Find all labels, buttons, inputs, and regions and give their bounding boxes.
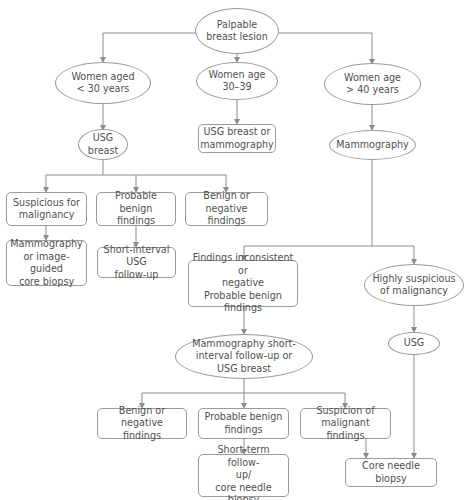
node-palpable-breast-lesion: Palpable breast lesion bbox=[195, 8, 279, 54]
node-benign-or-negative-findings-1: Benign or negative findings bbox=[185, 192, 268, 226]
node-women-under-30: Women aged < 30 years bbox=[55, 62, 151, 104]
node-mammography: Mammography bbox=[329, 130, 416, 160]
node-findings-inconsistent: Findings inconsistent or negative Probab… bbox=[188, 260, 298, 307]
node-usg-breast: USG breast bbox=[78, 129, 128, 160]
node-probable-benign-findings-2: Probable benign findings bbox=[198, 408, 289, 439]
node-benign-or-negative-findings-2: Benign or negative findings bbox=[97, 408, 187, 439]
node-suspicion-of-malignant-findings: Suspicion of malignant findings bbox=[300, 408, 391, 439]
node-women-30-39: Women age 30–39 bbox=[196, 62, 278, 100]
node-usg: USG bbox=[388, 332, 440, 355]
node-core-needle-biopsy: Core needle biopsy bbox=[345, 458, 437, 487]
flowchart-canvas: Palpable breast lesion Women aged < 30 y… bbox=[0, 0, 469, 500]
node-mammography-short-interval: Mammography short- interval follow-up or… bbox=[175, 334, 313, 379]
node-highly-suspicious: Highly suspicious of malignancy bbox=[364, 264, 464, 306]
node-mammography-or-core-biopsy: Mammography or image-guided core biopsy bbox=[6, 240, 87, 286]
node-usg-or-mammography: USG breast or mammography bbox=[198, 124, 276, 153]
node-women-over-40: Women age > 40 years bbox=[324, 63, 421, 105]
node-suspicious-for-malignancy: Suspicious for malignancy bbox=[6, 192, 87, 226]
node-probable-benign-findings-1: Probable benign findings bbox=[96, 192, 176, 226]
node-short-term-followup: Short-term follow- up/ core needle biops… bbox=[198, 454, 289, 497]
node-short-interval-usg: Short-interval USG follow-up bbox=[97, 247, 176, 278]
